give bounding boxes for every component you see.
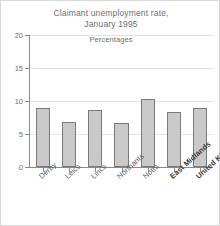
bar xyxy=(167,112,181,167)
bar-slot xyxy=(141,35,155,167)
bar-series xyxy=(30,35,213,167)
chart-title-line-1: Claimant unemployment rate, xyxy=(1,8,220,19)
bar xyxy=(88,110,102,167)
bar xyxy=(114,123,128,167)
y-tick-label-5: 5 xyxy=(19,130,23,139)
y-tick-label-20: 20 xyxy=(15,31,23,40)
bar xyxy=(62,122,76,167)
bar-slot xyxy=(62,35,76,167)
bar-slot xyxy=(114,35,128,167)
bar-slot xyxy=(167,35,181,167)
chart-title: Claimant unemployment rate, January 1995 xyxy=(1,8,220,29)
chart-frame: Claimant unemployment rate, January 1995… xyxy=(0,0,220,226)
y-tick-label-15: 15 xyxy=(15,64,23,73)
bar xyxy=(36,108,50,167)
chart-title-line-2: January 1995 xyxy=(1,19,220,30)
y-tick-label-0: 0 xyxy=(19,163,23,172)
plot-area: 05101520 DerbyLeicsLincsNorthantsNottsEa… xyxy=(29,35,213,167)
bar-slot xyxy=(36,35,50,167)
y-tick-label-10: 10 xyxy=(15,97,23,106)
bar-slot xyxy=(88,35,102,167)
